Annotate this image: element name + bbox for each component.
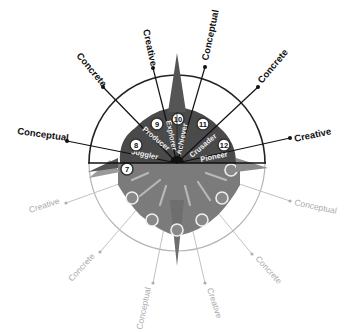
arrow-head-icon [256, 85, 260, 89]
arrow-head-icon [203, 65, 207, 69]
arrow-head-icon [151, 281, 154, 284]
arrow-label: Creative [293, 125, 332, 144]
arrow-label: Conceptual [17, 125, 70, 143]
arrow-label: Conceptual [134, 286, 153, 330]
pointer-north [168, 53, 186, 112]
arrow-head-icon [151, 66, 155, 70]
arrow-label: Creative [28, 196, 61, 215]
lower-node [146, 214, 158, 226]
compass-diagram: Conceptual Concrete Creative Conceptual … [0, 0, 354, 332]
badge-11: 11 [199, 120, 207, 129]
arrow-head-icon [203, 281, 206, 284]
lower-node [196, 214, 208, 226]
arrow-head-icon [98, 250, 101, 253]
arrow-label: Creative [205, 287, 224, 320]
arrow-label: Concrete [255, 47, 290, 86]
arrow-head-icon [288, 136, 292, 140]
arrow-label: Concrete [74, 50, 109, 89]
lower-node [171, 224, 183, 236]
arrow-head-icon [288, 199, 291, 202]
arrow-label: Conceptual [199, 9, 221, 62]
lower-node [126, 192, 138, 204]
arrow-label: Concrete [254, 254, 285, 287]
lower-node [216, 192, 228, 204]
badge-9: 9 [155, 120, 159, 129]
arrow-head-icon [64, 201, 67, 204]
badge-7: 7 [125, 165, 129, 174]
badge-8: 8 [134, 141, 138, 150]
arrow-label: Conceptual [294, 197, 338, 216]
pointer-east [236, 158, 268, 172]
arrow-head-icon [250, 252, 253, 255]
arrow-label: Creative [141, 28, 160, 67]
lower-node [225, 164, 237, 176]
badge-10: 10 [174, 115, 182, 124]
badge-12: 12 [220, 141, 228, 150]
arrow-label: Concrete [66, 251, 97, 284]
